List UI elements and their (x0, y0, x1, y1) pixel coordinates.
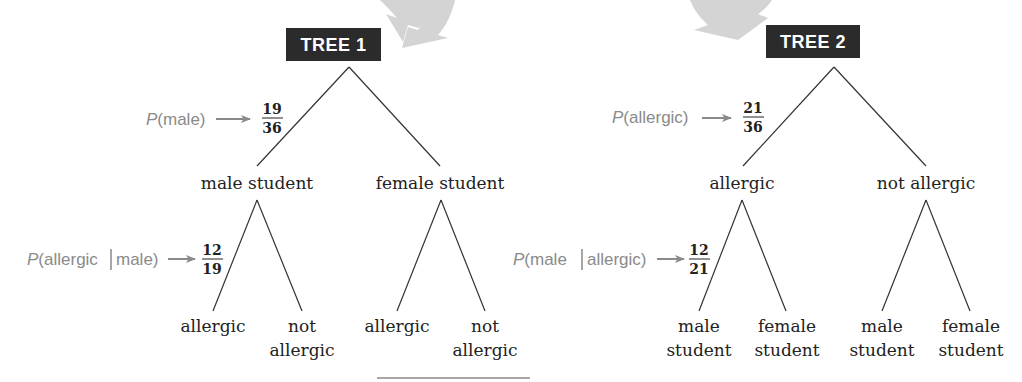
leaf-not-allergic-male-line2: student (849, 340, 914, 360)
branch-not-allergic-male (882, 200, 926, 311)
node-male-student: male student (201, 173, 314, 193)
leaf-not-allergic-female-line2: student (938, 340, 1003, 360)
node-allergic: allergic (709, 173, 774, 193)
leaf-male-not-allergic-line1: not (288, 316, 316, 336)
p-male-given-allergic-label-b: allergic) (587, 250, 647, 269)
fraction-denominator: 21 (689, 261, 708, 277)
leaf-female-not-allergic-line2: allergic (452, 340, 517, 360)
probability-tree-diagram: TREE 1 male student female student aller… (0, 0, 1022, 382)
leaf-not-allergic-male-line1: male (861, 316, 903, 336)
leaf-male-not-allergic-line2: allergic (269, 340, 334, 360)
tree-2: TREE 2 allergic not allergic male studen… (513, 25, 1004, 360)
big-curved-arrow-left-icon (372, 0, 455, 48)
tree-1-title: TREE 1 (300, 35, 366, 55)
big-curved-arrow-right-icon (690, 0, 772, 40)
node-female-student: female student (376, 173, 505, 193)
p-male-given-allergic-label: P(male (513, 250, 567, 269)
p-allergic-given-male-label: P(allergic (27, 250, 98, 269)
fraction-denominator: 19 (202, 261, 221, 277)
fraction-numerator: 12 (689, 242, 708, 258)
branch-male-not-allergic (257, 200, 302, 311)
branch-not-allergic (834, 67, 926, 166)
tree-2-title: TREE 2 (780, 32, 846, 52)
annotation-p-allergic: P(allergic) 21 36 (612, 100, 764, 135)
fraction-numerator: 21 (743, 100, 762, 116)
leaf-female-allergic: allergic (364, 316, 429, 336)
leaf-not-allergic-female-line1: female (942, 316, 1000, 336)
fraction-numerator: 19 (262, 101, 281, 117)
leaf-allergic-male-line2: student (666, 340, 731, 360)
p-male-label: P(male) (146, 110, 206, 129)
p-allergic-given-male-label-b: male) (116, 250, 159, 269)
leaf-allergic-female-line2: student (754, 340, 819, 360)
fraction-denominator: 36 (743, 119, 762, 135)
branch-not-allergic-female (926, 200, 970, 311)
branch-female (349, 67, 440, 166)
fraction-numerator: 12 (202, 242, 221, 258)
annotation-p-male: P(male) 19 36 (146, 101, 283, 136)
tree-1: TREE 1 male student female student aller… (27, 28, 518, 360)
branch-allergic-female (742, 200, 786, 311)
fraction-denominator: 36 (262, 120, 281, 136)
leaf-female-not-allergic-line1: not (471, 316, 499, 336)
annotation-p-allergic-given-male: P(allergic male) 12 19 (27, 242, 223, 277)
annotation-p-male-given-allergic: P(male allergic) 12 21 (513, 242, 710, 277)
leaf-allergic-female-line1: female (758, 316, 816, 336)
branch-female-allergic (397, 200, 441, 311)
p-allergic-label: P(allergic) (612, 108, 689, 127)
leaf-allergic-male-line1: male (678, 316, 720, 336)
node-not-allergic: not allergic (877, 173, 975, 193)
leaf-male-allergic: allergic (180, 316, 245, 336)
branch-female-not-allergic (441, 200, 485, 311)
